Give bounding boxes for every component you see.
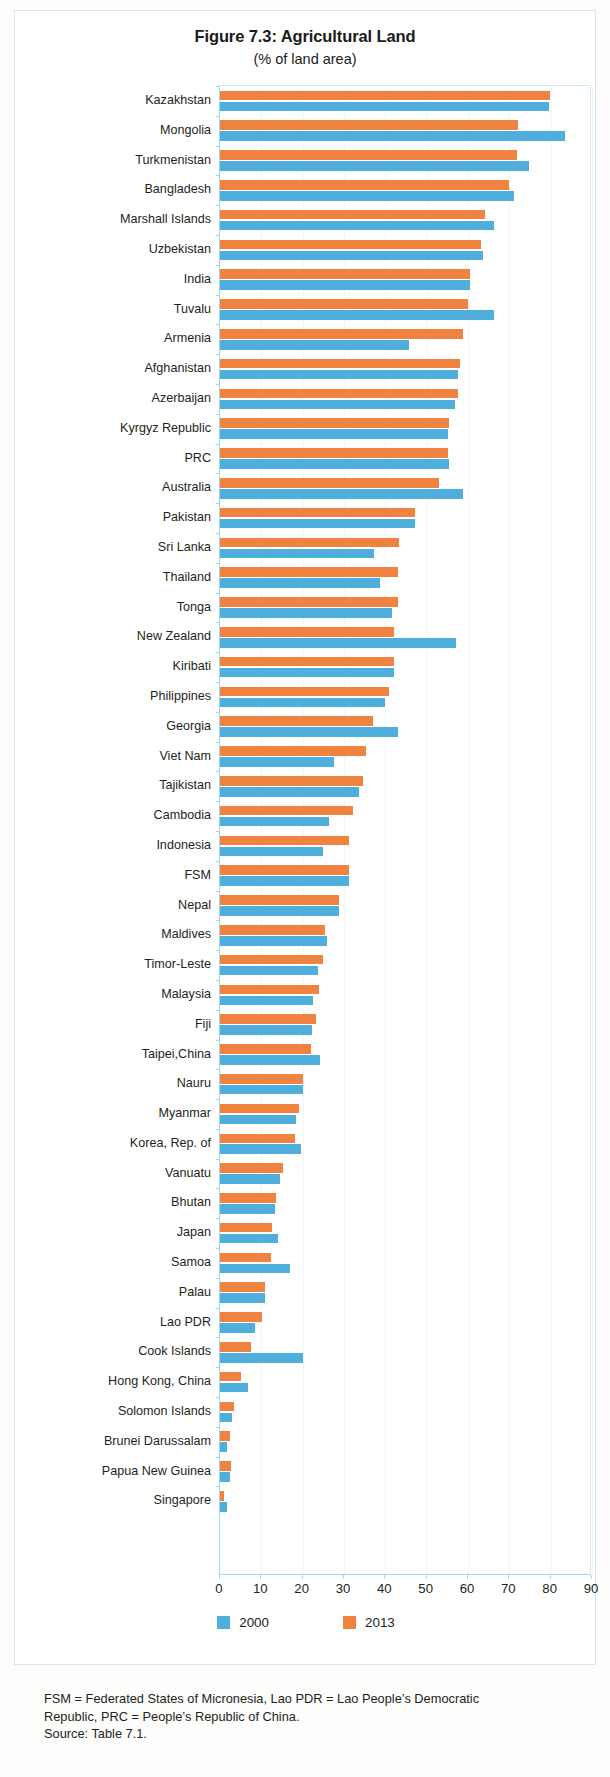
category-label: Marshall Islands [24, 205, 220, 235]
category-label: Hong Kong, China [24, 1367, 220, 1397]
category-label: Tuvalu [24, 295, 220, 325]
chart-row: Bangladesh [220, 175, 590, 205]
chart-row: Myanmar [220, 1099, 590, 1129]
page-background: Figure 7.3: Agricultural Land (% of land… [0, 0, 610, 1777]
chart-row: Bhutan [220, 1188, 590, 1218]
chart-row: Armenia [220, 324, 590, 354]
bar-2013 [220, 1253, 271, 1263]
bar-2000 [220, 1502, 227, 1512]
bar-2000 [220, 1144, 301, 1154]
category-label: Myanmar [24, 1099, 220, 1129]
bar-2013 [220, 1372, 241, 1382]
bar-2013 [220, 508, 415, 518]
bar-2000 [220, 1025, 312, 1035]
chart-row: Viet Nam [220, 742, 590, 772]
bar-2000 [220, 1085, 303, 1095]
chart-row: Vanuatu [220, 1159, 590, 1189]
category-label: Pakistan [24, 503, 220, 533]
legend-swatch-icon [217, 1616, 230, 1629]
bar-2013 [220, 1223, 272, 1233]
bar-2000 [220, 608, 392, 618]
category-label: Tonga [24, 593, 220, 623]
bar-2000 [220, 727, 398, 737]
bar-2013 [220, 1431, 230, 1441]
bar-2000 [220, 1115, 296, 1125]
legend-label: 2013 [365, 1615, 395, 1630]
bar-2000 [220, 489, 463, 499]
chart-row: Palau [220, 1278, 590, 1308]
category-label: Samoa [24, 1248, 220, 1278]
bar-2013 [220, 1134, 295, 1144]
chart-row: Lao PDR [220, 1308, 590, 1338]
bar-2013 [220, 150, 517, 160]
category-label: Brunei Darussalam [24, 1427, 220, 1457]
bar-2000 [220, 936, 327, 946]
bar-2013 [220, 359, 460, 369]
bar-2000 [220, 1204, 275, 1214]
bar-2000 [220, 1383, 248, 1393]
legend-item[interactable]: 2013 [343, 1615, 395, 1630]
chart-row: Kiribati [220, 652, 590, 682]
x-axis-tick [384, 1575, 385, 1579]
chart-row: Azerbaijan [220, 384, 590, 414]
legend-item[interactable]: 2000 [217, 1615, 269, 1630]
category-label: Solomon Islands [24, 1397, 220, 1427]
bar-2013 [220, 985, 319, 995]
bar-2013 [220, 448, 448, 458]
category-label: Nauru [24, 1069, 220, 1099]
bar-2013 [220, 269, 470, 279]
x-axis-tick [508, 1575, 509, 1579]
bar-2013 [220, 120, 518, 130]
bar-2000 [220, 429, 448, 439]
category-label: Sri Lanka [24, 533, 220, 563]
category-label: Fiji [24, 1010, 220, 1040]
bar-2013 [220, 1312, 262, 1322]
chart-row: Pakistan [220, 503, 590, 533]
bar-2013 [220, 1461, 231, 1471]
chart-row: PRC [220, 444, 590, 474]
bar-2013 [220, 1491, 224, 1501]
chart-row: Korea, Rep. of [220, 1129, 590, 1159]
chart-row: Samoa [220, 1248, 590, 1278]
bar-2000 [220, 906, 339, 916]
category-label: Japan [24, 1218, 220, 1248]
bar-2000 [220, 1413, 232, 1423]
category-label: Afghanistan [24, 354, 220, 384]
category-label: Cook Islands [24, 1337, 220, 1367]
chart-row: Tajikistan [220, 771, 590, 801]
category-label: Armenia [24, 324, 220, 354]
category-label: Papua New Guinea [24, 1457, 220, 1487]
bar-2000 [220, 519, 415, 529]
bar-2013 [220, 1193, 276, 1203]
bar-2013 [220, 240, 481, 250]
category-label: Timor-Leste [24, 950, 220, 980]
bar-2013 [220, 776, 363, 786]
bar-2000 [220, 310, 494, 320]
category-label: Malaysia [24, 980, 220, 1010]
category-label: Singapore [24, 1486, 220, 1516]
bar-2013 [220, 1014, 316, 1024]
chart-row: Solomon Islands [220, 1397, 590, 1427]
x-axis-tick-label: 20 [294, 1581, 309, 1596]
chart-row: Hong Kong, China [220, 1367, 590, 1397]
bar-2013 [220, 925, 325, 935]
chart-row: Tuvalu [220, 295, 590, 325]
x-axis-tick-label: 50 [418, 1581, 433, 1596]
bar-2000 [220, 966, 318, 976]
legend-swatch-icon [343, 1616, 356, 1629]
bar-2013 [220, 538, 399, 548]
bar-2013 [220, 597, 398, 607]
chart-row: Japan [220, 1218, 590, 1248]
chart-row: Kyrgyz Republic [220, 414, 590, 444]
bar-rows: KazakhstanMongoliaTurkmenistanBangladesh… [220, 86, 590, 1574]
chart-row: Turkmenistan [220, 146, 590, 176]
category-label: Viet Nam [24, 742, 220, 772]
x-axis: 0102030405060708090 [219, 1575, 591, 1603]
bar-2013 [220, 865, 349, 875]
bar-2000 [220, 280, 470, 290]
bar-2013 [220, 806, 353, 816]
chart-row: Papua New Guinea [220, 1457, 590, 1487]
bar-2000 [220, 400, 455, 410]
chart-container: KazakhstanMongoliaTurkmenistanBangladesh… [15, 85, 597, 1630]
category-label: Bhutan [24, 1188, 220, 1218]
